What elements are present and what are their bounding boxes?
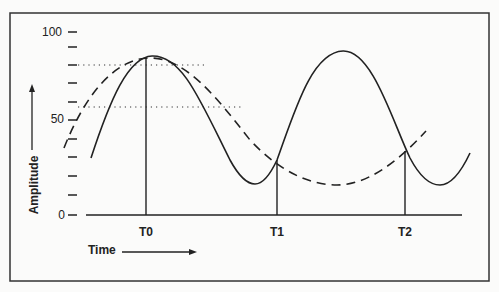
x-axis-title: Time (88, 243, 116, 257)
solid-wave (91, 51, 470, 185)
t1-label: T1 (270, 225, 284, 239)
y-label-0: 0 (58, 208, 65, 222)
t2-label: T2 (398, 225, 412, 239)
x-axis-arrow-icon (122, 249, 197, 255)
t0-label: T0 (139, 225, 153, 239)
y-axis-ticks (68, 32, 77, 215)
y-axis-title: Amplitude (27, 155, 41, 214)
y-label-100: 100 (42, 25, 62, 39)
y-label-50: 50 (51, 112, 65, 126)
dashed-wave (64, 58, 426, 185)
diagram-frame (10, 13, 489, 281)
y-axis-arrow-icon (29, 84, 35, 150)
amplitude-time-diagram: 100 50 0 Amplitude T0 T1 T2 Time (0, 0, 499, 292)
